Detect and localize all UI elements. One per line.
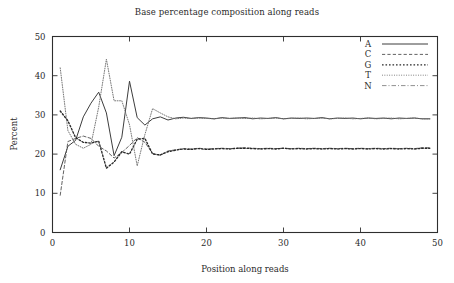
y-tick-label: 30 xyxy=(35,110,46,120)
y-axis-ticks: 01020304050 xyxy=(35,32,438,238)
y-tick-label: 20 xyxy=(35,149,46,159)
legend-label-c: C xyxy=(365,49,372,59)
x-tick-label: 30 xyxy=(278,238,289,248)
data-series-group xyxy=(60,59,430,232)
x-tick-label: 0 xyxy=(50,238,55,248)
chart-figure: Base percentage composition along reads … xyxy=(0,0,454,283)
y-tick-label: 0 xyxy=(40,228,45,238)
series-line-t xyxy=(60,59,430,166)
legend-label-a: A xyxy=(364,39,372,49)
x-axis-ticks: 01020304050 xyxy=(50,37,443,248)
series-line-g xyxy=(60,111,430,168)
x-tick-label: 40 xyxy=(355,238,366,248)
x-axis-label: Position along reads xyxy=(201,264,289,274)
x-tick-label: 10 xyxy=(124,238,135,248)
y-tick-label: 50 xyxy=(35,32,46,42)
y-tick-label: 40 xyxy=(35,71,46,81)
y-axis-label: Percent xyxy=(9,117,19,151)
series-line-c xyxy=(60,136,430,195)
x-tick-label: 50 xyxy=(432,238,443,248)
legend-label-n: N xyxy=(364,81,372,91)
x-tick-label: 20 xyxy=(201,238,212,248)
chart-legend: ACGTN xyxy=(364,39,428,91)
legend-label-g: G xyxy=(365,60,372,70)
legend-label-t: T xyxy=(365,70,371,80)
y-tick-label: 10 xyxy=(35,188,46,198)
chart-plot-area: 01020304050 01020304050 ACGTN Position a… xyxy=(0,0,454,283)
